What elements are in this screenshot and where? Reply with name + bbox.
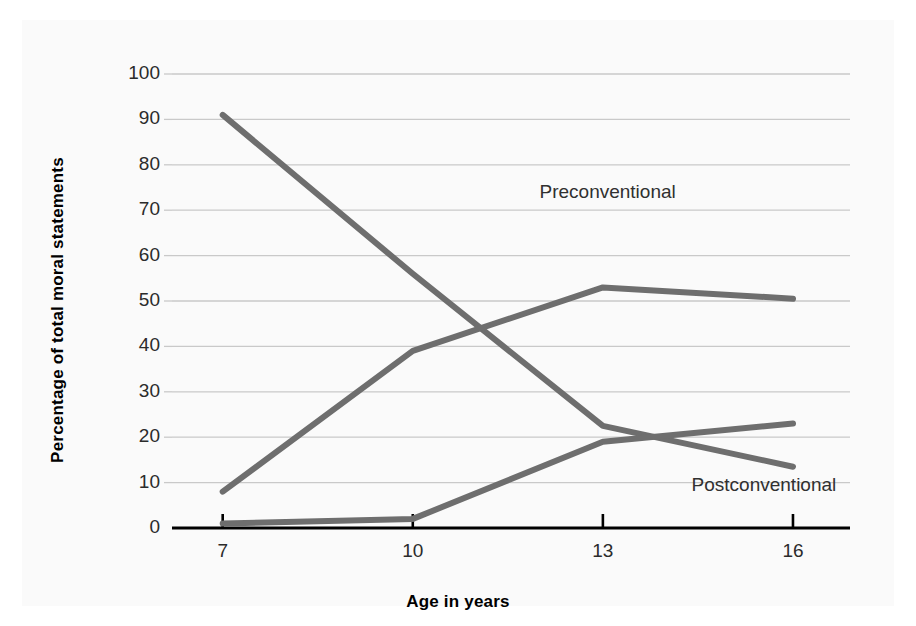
y-tick-label: 30 — [98, 380, 160, 402]
gridlines — [164, 74, 850, 483]
x-tick-label: 7 — [193, 540, 253, 562]
y-tick-label: 90 — [98, 107, 160, 129]
x-tick-label: 10 — [383, 540, 443, 562]
series-line-conventional — [223, 287, 793, 491]
chart-figure: Age in years Percentage of total moral s… — [0, 0, 916, 626]
y-tick-label: 40 — [98, 334, 160, 356]
y-tick-label: 60 — [98, 244, 160, 266]
x-axis-title: Age in years — [0, 592, 916, 612]
y-tick-label: 50 — [98, 289, 160, 311]
y-tick-label: 10 — [98, 471, 160, 493]
series-label-preconventional: Preconventional — [540, 181, 676, 203]
x-tick-label: 13 — [573, 540, 633, 562]
y-tick-label: 70 — [98, 198, 160, 220]
y-tick-label: 100 — [98, 62, 160, 84]
data-lines — [223, 115, 793, 524]
y-tick-label: 0 — [98, 516, 160, 538]
y-tick-label: 80 — [98, 153, 160, 175]
x-tick-label: 16 — [763, 540, 823, 562]
series-label-postconventional: Postconventional — [692, 474, 837, 496]
y-tick-label: 20 — [98, 425, 160, 447]
y-axis-title: Percentage of total moral statements — [48, 80, 68, 540]
